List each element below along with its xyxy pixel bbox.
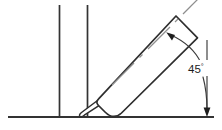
technical-drawing-canvas: 45° <box>0 0 222 130</box>
wall-structure-group <box>60 5 88 117</box>
centerline-dash-3 <box>183 0 200 14</box>
degree-symbol-icon: ° <box>201 62 204 71</box>
dimension-arrowhead-lower <box>204 108 211 117</box>
drawing-svg: 45° <box>0 0 222 130</box>
tool-body <box>97 16 198 117</box>
angle-value: 45 <box>188 63 201 75</box>
dimension-arc-lower <box>203 77 207 110</box>
